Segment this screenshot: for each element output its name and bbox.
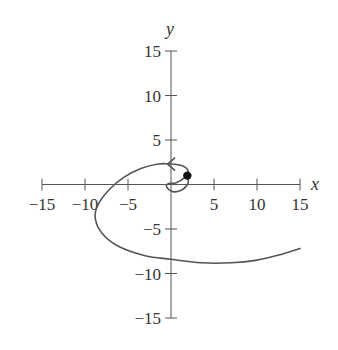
y-tick-label: −15 bbox=[134, 309, 161, 328]
y-tick-label: −5 bbox=[143, 220, 161, 239]
x-tick-label: 15 bbox=[292, 195, 309, 214]
y-tick-label: −10 bbox=[134, 265, 161, 284]
spiral-plot: −15−10−551015 15105−5−10−15 x y bbox=[0, 0, 338, 350]
x-tick-label: 10 bbox=[249, 195, 266, 214]
y-tick-label: 15 bbox=[144, 42, 161, 61]
start-point-marker bbox=[183, 171, 191, 179]
axes bbox=[42, 51, 300, 318]
y-tick-label: 10 bbox=[144, 87, 161, 106]
x-tick-label: −15 bbox=[29, 195, 56, 214]
x-tick-label: 5 bbox=[210, 195, 219, 214]
x-tick-label: −5 bbox=[119, 195, 137, 214]
x-axis-tick-labels: −15−10−551015 bbox=[29, 195, 309, 214]
x-axis-label: x bbox=[310, 174, 319, 194]
y-tick-label: 5 bbox=[153, 131, 162, 150]
x-tick-label: −10 bbox=[72, 195, 99, 214]
y-axis-label: y bbox=[164, 19, 174, 39]
